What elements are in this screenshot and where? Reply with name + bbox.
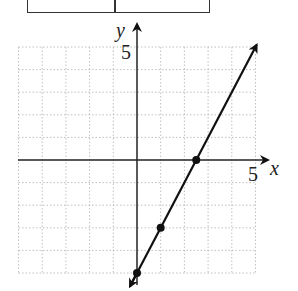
x-axis-label: x	[270, 158, 279, 178]
y-tick-label: 5	[121, 42, 131, 62]
y-axis-label: y	[116, 20, 125, 40]
coordinate-plane	[0, 0, 298, 291]
plotted-point	[192, 156, 200, 164]
x-tick-label: 5	[248, 164, 258, 184]
plotted-line	[130, 45, 257, 287]
plotted-point	[157, 224, 165, 232]
plotted-point	[133, 269, 141, 277]
